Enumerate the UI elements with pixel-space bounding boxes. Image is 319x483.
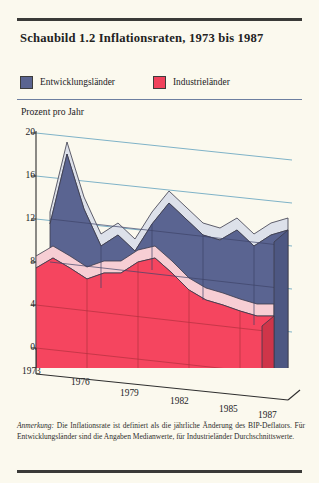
- series-entwicklungslaender-front: [50, 154, 288, 368]
- series-industrielaender-side-face: [262, 316, 274, 384]
- red-face-gridlines: [36, 262, 274, 374]
- y-tick-20: 20: [17, 126, 35, 137]
- figure-note: Anmerkung: Die Inflationsrate ist defini…: [17, 420, 305, 443]
- y-tick-12: 12: [17, 212, 35, 223]
- figure-page: Schaubild 1.2 Inflationsraten, 1973 bis …: [0, 0, 319, 483]
- y-tick-4: 4: [17, 298, 35, 309]
- series-industrielaender-top: [36, 246, 274, 316]
- x-tick-1979: 1979: [120, 388, 139, 398]
- bottom-rule: [17, 470, 302, 473]
- page-title: Schaubild 1.2 Inflationsraten, 1973 bis …: [20, 31, 305, 46]
- x-tick-1987: 1987: [258, 410, 277, 420]
- legend-divider: [17, 99, 302, 100]
- figure-note-lead: Anmerkung:: [17, 421, 54, 430]
- legend-swatch-blue-icon: [20, 76, 33, 89]
- series-area-group: [36, 142, 288, 386]
- blue-face-gridlines: [50, 219, 288, 325]
- series-entwicklungslaender-top: [50, 142, 288, 251]
- series-industrielaender-front: [36, 258, 274, 374]
- y-axis: [31, 131, 36, 350]
- top-rule: [17, 18, 302, 21]
- legend-item-entwicklungslaender: Entwicklungsländer: [20, 74, 115, 90]
- legend-label-entwicklungslaender: Entwicklungsländer: [40, 77, 115, 87]
- x-axis: [36, 348, 300, 400]
- series-entwicklungslaender-side: [274, 230, 288, 380]
- chart-legend: Entwicklungsländer Industrieländer: [20, 74, 300, 90]
- legend-swatch-red-icon: [153, 76, 166, 89]
- x-tick-1976: 1976: [71, 377, 90, 387]
- figure-note-text: Die Inflationsrate ist definiert als die…: [17, 421, 305, 441]
- gridlines: [36, 133, 292, 332]
- y-tick-16: 16: [17, 169, 35, 180]
- y-axis-label: Prozent pro Jahr: [21, 106, 84, 117]
- legend-item-industrielaender: Industrieländer: [153, 74, 230, 90]
- y-tick-8: 8: [17, 255, 35, 266]
- x-tick-1973: 1973: [22, 366, 41, 376]
- x-tick-1985: 1985: [219, 404, 238, 414]
- legend-label-industrielaender: Industrieländer: [173, 77, 230, 87]
- y-tick-0: 0: [17, 341, 35, 352]
- x-tick-1982: 1982: [170, 396, 189, 406]
